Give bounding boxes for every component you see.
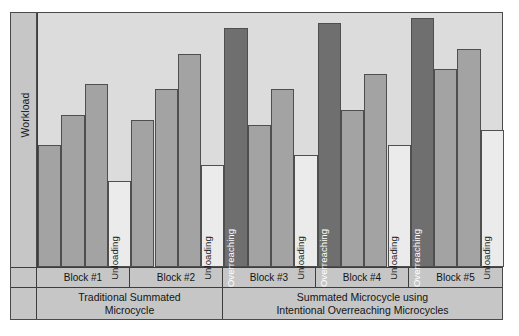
bar-b1-w2 (61, 115, 84, 267)
bar-b5-w4: Unloading (481, 130, 504, 267)
bar-b4-w1: Overreaching (318, 23, 341, 267)
bar-b4-w2 (341, 110, 364, 267)
bar-b5-w1: Overreaching (411, 18, 434, 267)
workload-periodization-figure: Workload UnloadingUnloadingOverreachingU… (10, 12, 503, 320)
phase-caption-2-line-2: Intentional Overreaching Microcycles (276, 304, 448, 317)
phase-caption-1: Traditional SummatedMicrocycle (37, 288, 223, 319)
y-axis-label: Workload (19, 55, 31, 175)
bar-b2-w1 (131, 120, 154, 267)
plot-area: UnloadingUnloadingOverreachingUnloadingO… (37, 13, 502, 267)
block-label-row: Block #1Block #2Block #3Block #4Block #5 (11, 267, 502, 287)
bar-label-overreaching: Overreaching (225, 229, 236, 287)
bar-b4-w3 (364, 74, 387, 267)
bar-label-unloading: Unloading (109, 236, 120, 280)
bar-b3-w3 (271, 89, 294, 267)
bar-label-unloading: Unloading (481, 236, 492, 280)
y-axis-band: Workload (11, 13, 37, 267)
bar-b5-w2 (434, 69, 457, 267)
bar-b3-w4: Unloading (294, 155, 317, 267)
bar-b3-w1: Overreaching (224, 28, 247, 267)
phase-caption-2: Summated Microcycle usingIntentional Ove… (223, 288, 502, 319)
bar-label-overreaching: Overreaching (318, 229, 329, 287)
bar-b1-w1 (38, 145, 61, 267)
bar-label-overreaching: Overreaching (411, 229, 422, 287)
phase-caption-1-line-1: Traditional Summated (78, 291, 180, 304)
bar-b2-w3 (178, 54, 201, 267)
phase-caption-1-line-2: Microcycle (105, 304, 155, 317)
bar-b5-w3 (457, 49, 480, 267)
bar-label-unloading: Unloading (202, 236, 213, 280)
bars-container: UnloadingUnloadingOverreachingUnloadingO… (38, 13, 502, 267)
bar-b1-w4: Unloading (108, 181, 131, 267)
bar-label-unloading: Unloading (388, 236, 399, 280)
bar-b3-w2 (248, 125, 271, 267)
bar-b1-w3 (85, 84, 108, 267)
phase-caption-row: Traditional SummatedMicrocycleSummated M… (11, 287, 502, 319)
block-row-spacer (11, 268, 37, 287)
bar-b2-w4: Unloading (201, 165, 224, 267)
bar-label-unloading: Unloading (295, 236, 306, 280)
phase-row-spacer (11, 288, 37, 319)
bar-b2-w2 (155, 89, 178, 267)
phase-caption-2-line-1: Summated Microcycle using (297, 291, 428, 304)
bar-b4-w4: Unloading (388, 145, 411, 267)
